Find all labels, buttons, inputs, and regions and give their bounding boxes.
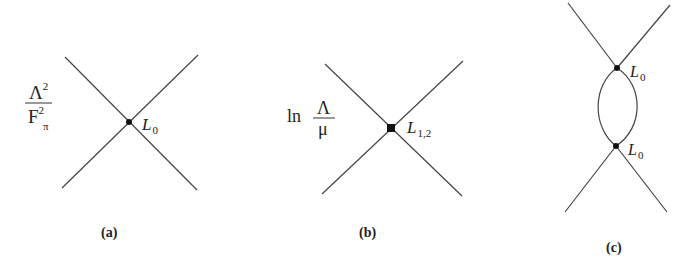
vertex-square-icon xyxy=(387,124,395,132)
prefactor-denominator: μ xyxy=(318,120,328,138)
vertex-dot-icon xyxy=(126,119,132,125)
vertex-dot-icon xyxy=(613,143,619,149)
vertex-dot-icon xyxy=(614,65,620,71)
caption-c: (c) xyxy=(606,241,622,255)
caption-b: (b) xyxy=(359,226,376,240)
loop-propagator-left xyxy=(598,68,617,146)
prefactor-denominator: F2π xyxy=(28,107,44,126)
vertex-label: L1,2 xyxy=(407,119,431,136)
prefactor-numerator: Λ xyxy=(317,99,330,117)
propagator-line xyxy=(565,146,616,212)
diagram-c xyxy=(565,3,670,212)
propagator-line xyxy=(568,3,617,68)
vertex-label: L0 xyxy=(630,64,645,80)
vertex-label: L0 xyxy=(142,116,158,133)
vertex-label: L0 xyxy=(628,142,643,158)
propagator-line xyxy=(617,5,670,68)
prefactor-numerator: Λ2 xyxy=(29,83,48,102)
log-label: ln xyxy=(287,107,301,125)
caption-a: (a) xyxy=(101,226,117,240)
